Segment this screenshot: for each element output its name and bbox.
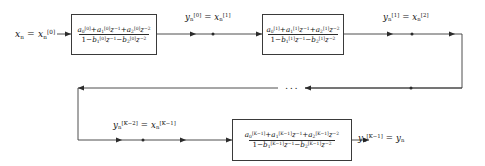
- node-return-right: [410, 87, 413, 90]
- label-after-section-0: yn[0] = xn[1]: [185, 12, 231, 22]
- filter-section-1[interactable]: a0[1]+a1[1]z−1+a2[1]z−2 1−b1[1]z−1−b2[1]…: [262, 14, 344, 55]
- ellipsis-cascade-continues: ...: [283, 81, 301, 91]
- denominator-1: 1−b1[1]z−1−b2[1]z−2: [268, 34, 339, 43]
- label-before-last-section: yn[K−2] = xn[K−1]: [113, 120, 176, 130]
- numerator-K-1: a0[K−1]+a1[K−1]z−1+a2[K−1]z−2: [242, 131, 342, 139]
- numerator-1: a0[1]+a1[1]z−1+a2[1]z−2: [263, 26, 342, 34]
- denominator-0: 1−b1[0]z−1−b2[0]z−2: [79, 34, 150, 43]
- label-output-signal: yn[K−1] = yn: [358, 133, 405, 143]
- transfer-function-0: a0[0]+a1[0]z−1+a2[0]z−2 1−b1[0]z−1−b2[0]…: [74, 26, 153, 44]
- node-before-last-section: [142, 139, 145, 142]
- transfer-function-1: a0[1]+a1[1]z−1+a2[1]z−2 1−b1[1]z−1−b2[1]…: [263, 26, 342, 44]
- filter-section-K-1[interactable]: a0[K−1]+a1[K−1]z−1+a2[K−1]z−2 1−b1[K−1]z…: [232, 119, 352, 161]
- node-after-section1: [411, 33, 414, 36]
- filter-section-0[interactable]: a0[0]+a1[0]z−1+a2[0]z−2 1−b1[0]z−1−b2[0]…: [71, 14, 157, 55]
- node-after-section0: [212, 33, 215, 36]
- label-after-section-1: yn[1] = xn[2]: [383, 12, 429, 22]
- label-input-signal: xn = xn[0]: [15, 28, 55, 39]
- transfer-function-K-1: a0[K−1]+a1[K−1]z−1+a2[K−1]z−2 1−b1[K−1]z…: [242, 131, 342, 149]
- denominator-K-1: 1−b1[K−1]z−1−b2[K−1]z−2: [249, 140, 334, 149]
- numerator-0: a0[0]+a1[0]z−1+a2[0]z−2: [74, 26, 153, 34]
- cascade-filter-diagram: ... a0[0]+a1[0]z−1+a2[0]z−2 1−b1[0]z−1−b…: [0, 0, 485, 166]
